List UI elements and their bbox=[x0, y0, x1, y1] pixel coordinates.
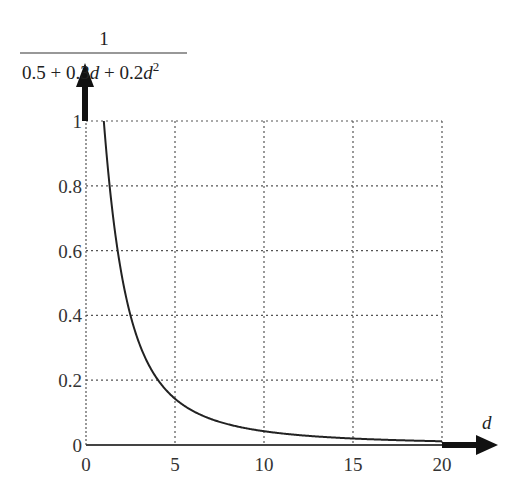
x-tick-labels: 05101520 bbox=[81, 454, 451, 475]
chart: 05101520 00.20.40.60.81 1 0.5 + 0.3d + 0… bbox=[0, 0, 523, 493]
y-tick-label: 0 bbox=[73, 435, 83, 456]
x-axis-arrow-shaft bbox=[442, 442, 480, 448]
x-axis-label: d bbox=[482, 412, 492, 433]
x-axis-arrowhead-icon bbox=[476, 435, 498, 455]
y-label-numerator: 1 bbox=[99, 28, 109, 49]
y-axis-label: 1 0.5 + 0.3d + 0.2d2 bbox=[20, 28, 187, 83]
x-tick-label: 0 bbox=[81, 454, 91, 475]
data-line bbox=[104, 121, 442, 441]
y-axis-arrow-shaft bbox=[82, 83, 88, 121]
x-tick-label: 5 bbox=[170, 454, 180, 475]
y-tick-label: 0.6 bbox=[58, 241, 82, 262]
x-tick-label: 10 bbox=[255, 454, 274, 475]
axes bbox=[76, 63, 498, 455]
y-tick-label: 0.8 bbox=[58, 176, 82, 197]
y-tick-label: 0.2 bbox=[58, 370, 82, 391]
y-label-denominator: 0.5 + 0.3d + 0.2d2 bbox=[22, 59, 159, 83]
y-tick-label: 1 bbox=[73, 111, 83, 132]
y-tick-labels: 00.20.40.60.81 bbox=[58, 111, 82, 456]
x-tick-label: 20 bbox=[433, 454, 452, 475]
grid-lines bbox=[86, 121, 442, 445]
y-tick-label: 0.4 bbox=[58, 305, 82, 326]
x-tick-label: 15 bbox=[344, 454, 363, 475]
